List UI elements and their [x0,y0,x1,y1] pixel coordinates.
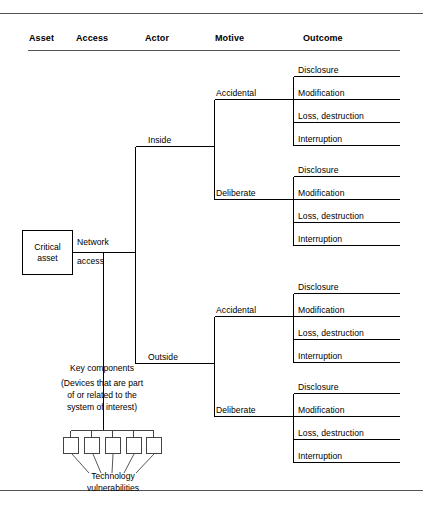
outcome-1-item-3: Loss, destruction [298,111,364,121]
column-header-motive: Motive [215,33,244,43]
key-component-box-2 [84,437,100,454]
critical-asset-box: Critical asset [22,230,73,275]
vulnerabilities-line1: Technology [52,471,174,483]
column-header-outcome: Outcome [303,33,343,43]
outcome-4-item-2: Modification [298,405,344,415]
vulnerabilities-line2: vulnerabilities [52,483,174,495]
motive-label-inside-deliberate: Deliberate [216,188,256,198]
access-label-line2: access [77,256,104,266]
key-components-line2: (Devices that are part [22,378,182,390]
outcome-2-item-3: Loss, destruction [298,211,364,221]
key-component-box-5 [146,437,162,454]
critical-asset-line1: Critical [34,242,60,253]
outcome-1-item-1: Disclosure [298,65,339,75]
key-component-box-4 [126,437,142,454]
outcome-3-item-2: Modification [298,305,344,315]
key-component-box-3 [105,437,121,454]
outcome-4-item-4: Interruption [298,451,342,461]
key-components-line1: Key components [22,363,182,375]
outcome-1-item-2: Modification [298,88,344,98]
motive-label-inside-accidental: Accidental [216,88,256,98]
actor-label-outside: Outside [148,352,178,362]
access-label-line1: Network [77,237,109,247]
threat-tree-diagram: Asset Access Actor Motive Outcome Critic… [0,0,423,514]
outcome-4-item-1: Disclosure [298,382,339,392]
outcome-2-item-2: Modification [298,188,344,198]
outcome-3-item-1: Disclosure [298,282,339,292]
critical-asset-line2: asset [37,253,58,264]
outcome-2-item-4: Interruption [298,234,342,244]
key-components-line3: of or related to the [22,390,182,402]
column-header-actor: Actor [145,33,169,43]
column-header-access: Access [76,33,108,43]
key-component-box-1 [63,437,79,454]
column-header-asset: Asset [29,33,54,43]
outcome-2-item-1: Disclosure [298,165,339,175]
key-components-line4: system of interest) [22,402,182,414]
outcome-1-item-4: Interruption [298,134,342,144]
outcome-4-item-3: Loss, destruction [298,428,364,438]
outcome-3-item-4: Interruption [298,351,342,361]
motive-label-outside-deliberate: Deliberate [216,405,256,415]
actor-label-inside: Inside [148,135,171,145]
outcome-3-item-3: Loss, destruction [298,328,364,338]
motive-label-outside-accidental: Accidental [216,305,256,315]
